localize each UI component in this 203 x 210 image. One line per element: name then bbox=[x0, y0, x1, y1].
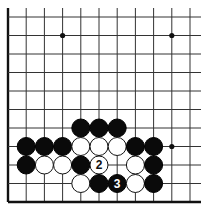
black-stone bbox=[35, 138, 53, 156]
black-stone-body bbox=[90, 119, 108, 137]
white-stone bbox=[90, 138, 108, 156]
white-stone-body bbox=[108, 138, 126, 156]
black-stone-body bbox=[108, 119, 126, 137]
stones: 23 bbox=[17, 119, 162, 193]
star-point bbox=[169, 144, 174, 149]
black-stone-body bbox=[90, 175, 108, 193]
black-stone bbox=[72, 119, 90, 137]
black-stone-body bbox=[145, 175, 163, 193]
white-stone-body bbox=[126, 156, 144, 174]
black-stone bbox=[145, 156, 163, 174]
move-number-label: 3 bbox=[114, 177, 121, 191]
white-stone bbox=[108, 138, 126, 156]
white-stone bbox=[72, 175, 90, 193]
black-stone-body bbox=[145, 156, 163, 174]
black-stone bbox=[90, 175, 108, 193]
black-stone bbox=[90, 119, 108, 137]
white-stone-body bbox=[72, 138, 90, 156]
black-stone bbox=[108, 119, 126, 137]
go-board: 23 bbox=[0, 0, 203, 210]
white-stone-body bbox=[72, 175, 90, 193]
white-stone-body bbox=[90, 138, 108, 156]
black-stone-body bbox=[72, 119, 90, 137]
star-point bbox=[169, 33, 174, 38]
black-stone-body bbox=[17, 156, 35, 174]
black-stone bbox=[72, 156, 90, 174]
black-stone bbox=[126, 138, 144, 156]
black-stone bbox=[17, 156, 35, 174]
black-stone-body bbox=[35, 138, 53, 156]
black-stone bbox=[17, 138, 35, 156]
white-stone bbox=[126, 175, 144, 193]
black-stone bbox=[145, 175, 163, 193]
black-stone-move-3: 3 bbox=[108, 175, 126, 193]
black-stone-body bbox=[126, 138, 144, 156]
black-stone bbox=[54, 138, 72, 156]
move-number-label: 2 bbox=[96, 158, 103, 172]
black-stone-body bbox=[17, 138, 35, 156]
white-stone-move-2: 2 bbox=[90, 156, 108, 174]
star-point bbox=[60, 33, 65, 38]
white-stone-body bbox=[35, 156, 53, 174]
black-stone-body bbox=[145, 138, 163, 156]
white-stone bbox=[35, 156, 53, 174]
white-stone-body bbox=[126, 175, 144, 193]
black-stone bbox=[145, 138, 163, 156]
black-stone-body bbox=[72, 156, 90, 174]
white-stone bbox=[126, 156, 144, 174]
white-stone bbox=[54, 156, 72, 174]
white-stone bbox=[72, 138, 90, 156]
black-stone-body bbox=[54, 138, 72, 156]
white-stone-body bbox=[54, 156, 72, 174]
